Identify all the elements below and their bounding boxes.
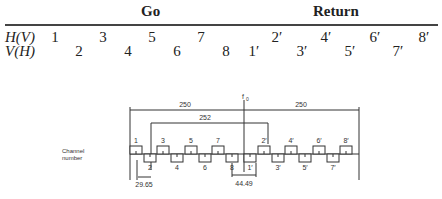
channel-label: 3 — [161, 137, 165, 144]
channel-label: 7′ — [330, 164, 336, 171]
channel-label: 1 — [134, 137, 138, 144]
axis-label-number: number — [62, 155, 82, 161]
channel-label: 4 — [175, 164, 179, 171]
channel-label: 6 — [203, 164, 207, 171]
axis-label-channel: Channel — [62, 148, 84, 154]
channel-label: 2′ — [261, 137, 267, 144]
channel-label: 4′ — [288, 137, 294, 144]
channel-label: 8′ — [343, 137, 349, 144]
channel-label: 1′ — [247, 164, 253, 171]
channel-label: 8 — [230, 164, 234, 171]
channel-label: 5′ — [302, 164, 308, 171]
channel-label: 2 — [148, 164, 152, 171]
center-frequency-subscript: 0 — [246, 96, 249, 102]
dim-left-250: 250 — [179, 101, 191, 108]
dim-span-252: 252 — [199, 114, 211, 121]
center-frequency-label: f — [242, 93, 244, 100]
channel-plan-diagram: 13572′4′6′8′24681′3′5′7′ Channel number … — [0, 0, 442, 199]
channel-label: 6′ — [316, 137, 322, 144]
channel-label: 7 — [216, 137, 220, 144]
channel-label: 3′ — [275, 164, 281, 171]
dim-right-250: 250 — [295, 101, 307, 108]
channel-label: 5 — [189, 137, 193, 144]
dim-spacing-29-65: 29.65 — [135, 181, 153, 188]
dim-center-gap-44-49: 44.49 — [235, 180, 253, 187]
